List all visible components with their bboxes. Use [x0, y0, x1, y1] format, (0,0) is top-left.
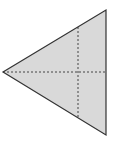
folded-triangle-diagram [0, 0, 120, 153]
triangle-shape [3, 10, 106, 135]
